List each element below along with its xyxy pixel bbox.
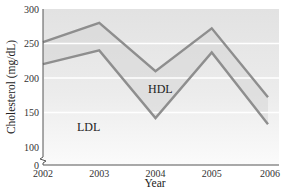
x-tick-label: 2006 xyxy=(260,168,280,179)
hdl-region-label: HDL xyxy=(148,82,173,96)
y-tick-label: 200 xyxy=(24,73,39,84)
x-axis-title: Year xyxy=(144,177,165,189)
x-tick-label: 2005 xyxy=(202,168,222,179)
y-tick-label: 100 xyxy=(24,142,39,153)
y-tick-labels: 3002502001501000 xyxy=(24,4,39,171)
y-axis-title: Cholesterol (mg/dL) xyxy=(5,40,18,134)
y-tick-label: 300 xyxy=(24,4,39,15)
x-tick-label: 2003 xyxy=(89,168,109,179)
y-tick-label: 250 xyxy=(24,38,39,49)
x-tick-label: 2002 xyxy=(33,168,53,179)
ldl-region-label: LDL xyxy=(77,120,100,134)
cholesterol-chart: 3002502001501000 20022003200420052006 LD… xyxy=(0,0,284,190)
y-tick-label: 150 xyxy=(24,107,39,118)
